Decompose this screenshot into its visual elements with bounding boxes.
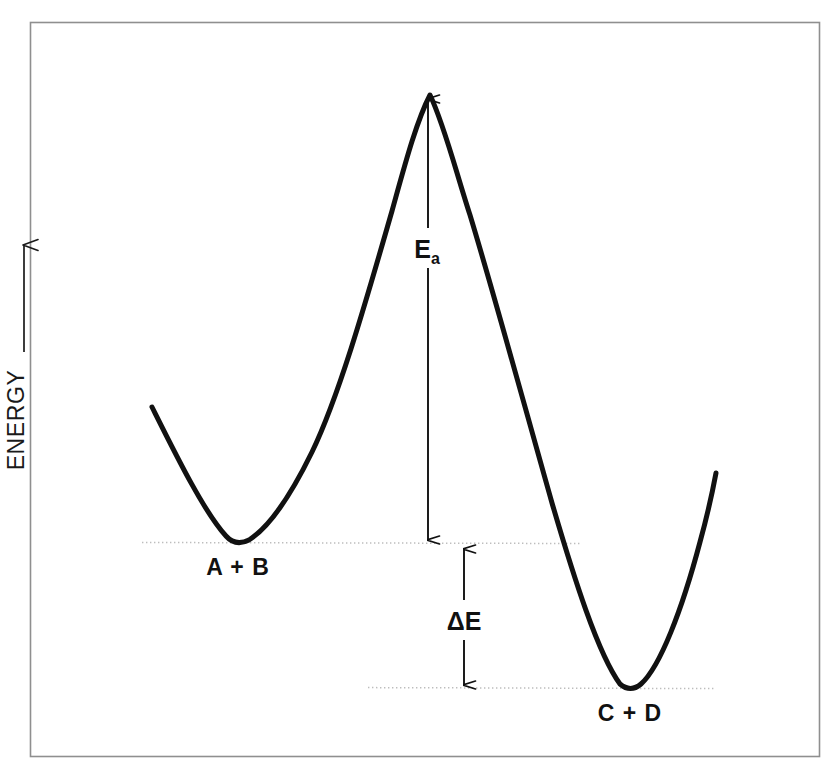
activation-energy-label: Ea [414, 235, 440, 267]
energy-profile-curve [152, 95, 716, 689]
energy-diagram-canvas: ENERGY Ea ΔE A + B C + D [0, 0, 830, 766]
activation-energy-subscript: a [431, 250, 440, 267]
reactants-label: A + B [206, 554, 270, 580]
energy-diagram-figure: ENERGY Ea ΔE A + B C + D [0, 0, 830, 766]
energy-axis-label: ENERGY [3, 370, 29, 471]
reactant-level-line [142, 543, 580, 544]
figure-border-frame [31, 23, 820, 757]
energy-change-label: ΔE [447, 607, 482, 635]
energy-axis-label-group: ENERGY [3, 245, 29, 470]
product-level-line [368, 688, 716, 689]
products-label: C + D [598, 700, 662, 726]
activation-energy-symbol: E [414, 235, 431, 263]
